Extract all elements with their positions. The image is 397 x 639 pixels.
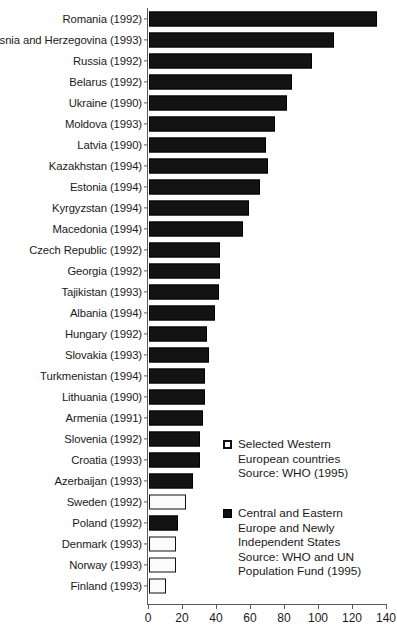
legend-cee-line-5: Population Fund (1995) [238,564,393,579]
category-label: Armenia (1991) [66,412,142,424]
bar-row: Ukraine (1990) [148,92,386,113]
bar-row: Bosnia and Herzegovina (1993) [148,29,386,50]
bar [149,137,266,152]
bar [149,368,205,383]
bar [149,158,268,173]
x-tick-mark [284,605,285,609]
category-label: Turkmenistan (1994) [40,370,142,382]
y-axis-tick [144,564,148,565]
category-label: Belarus (1992) [69,76,142,88]
x-tick-label: 80 [277,611,290,625]
category-label: Albania (1994) [70,307,142,319]
category-label: Georgia (1992) [67,265,142,277]
y-axis-tick [144,459,148,460]
bar [149,242,220,257]
y-axis-tick [144,144,148,145]
bar [149,116,275,131]
category-label: Finland (1993) [71,580,142,592]
y-axis-tick [144,102,148,103]
category-label: Czech Republic (1992) [29,244,142,256]
y-axis-tick [144,501,148,502]
y-axis-tick [144,228,148,229]
bar [149,200,249,215]
y-axis-tick [144,585,148,586]
category-label: Kazakhstan (1994) [49,160,142,172]
bar [149,347,209,362]
legend-swatch-light-icon [223,440,232,449]
category-label: Macedonia (1994) [53,223,142,235]
bar-row: Belarus (1992) [148,71,386,92]
legend-swatch-dark-icon [223,509,232,518]
bar-row: Armenia (1991) [148,407,386,428]
bar [149,326,207,341]
bar-row: Lithuania (1990) [148,386,386,407]
y-axis-tick [144,207,148,208]
y-axis-tick [144,438,148,439]
category-label: Tajikistan (1993) [61,286,142,298]
category-label: Slovakia (1993) [65,349,142,361]
bar [149,221,243,236]
y-axis-tick [144,312,148,313]
category-label: Hungary (1992) [65,328,142,340]
bar-row: Russia (1992) [148,50,386,71]
legend-western-line-1: Selected Western [238,437,393,452]
bar-row: Hungary (1992) [148,323,386,344]
x-tick-label: 120 [342,611,362,625]
legend-entry-western: Selected Western European countries Sour… [223,437,393,481]
legend-entry-cee: Central and Eastern Europe and Newly Ind… [223,506,393,579]
category-label: Norway (1993) [69,559,142,571]
category-label: Azerbaijan (1993) [55,475,142,487]
bar [149,263,220,278]
x-tick-label: 0 [145,611,152,625]
bar-row: Tajikistan (1993) [148,281,386,302]
category-label: Ukraine (1990) [69,97,142,109]
bar [149,494,186,509]
bar-row: Georgia (1992) [148,260,386,281]
category-label: Kyrgyzstan (1994) [52,202,142,214]
bar [149,452,200,467]
y-axis-tick [144,249,148,250]
y-axis-tick [144,396,148,397]
category-label: Estonia (1994) [70,181,142,193]
bar [149,389,205,404]
legend-western-line-2: European countries [238,452,393,467]
bar [149,431,200,446]
y-axis-tick [144,186,148,187]
bar [149,11,377,26]
bar-row: Kazakhstan (1994) [148,155,386,176]
bar [149,515,178,530]
bar-row: Slovakia (1993) [148,344,386,365]
x-tick-mark [352,605,353,609]
bar [149,74,292,89]
legend-cee-line-3: Independent States [238,535,393,550]
y-axis-tick [144,375,148,376]
bar-row: Moldova (1993) [148,113,386,134]
category-label: Moldova (1993) [65,118,142,130]
x-tick-mark [386,605,387,609]
legend-cee-line-2: Europe and Newly [238,521,393,536]
bar-row: Czech Republic (1992) [148,239,386,260]
bar-row: Albania (1994) [148,302,386,323]
category-label: Slovenia (1992) [64,433,142,445]
bar-row: Macedonia (1994) [148,218,386,239]
legend-central-eastern-europe: Central and Eastern Europe and Newly Ind… [223,506,393,579]
bar [149,473,193,488]
category-label: Latvia (1990) [77,139,142,151]
x-tick-label: 40 [209,611,222,625]
legend-western-europe: Selected Western European countries Sour… [223,437,393,481]
legend-cee-line-4: Source: WHO and UN [238,550,393,565]
bar-chart: Romania (1992)Bosnia and Herzegovina (19… [0,0,397,639]
x-tick-mark [318,605,319,609]
x-tick-label: 60 [243,611,256,625]
y-axis-tick [144,291,148,292]
y-axis-tick [144,81,148,82]
y-axis-tick [144,60,148,61]
bar [149,536,176,551]
legend-western-line-3: Source: WHO (1995) [238,466,393,481]
bar-row: Kyrgyzstan (1994) [148,197,386,218]
category-label: Sweden (1992) [67,496,142,508]
x-axis-ticks: 020406080100120140 [148,605,386,631]
x-tick-mark [250,605,251,609]
x-tick-label: 140 [376,611,396,625]
y-axis-tick [144,39,148,40]
